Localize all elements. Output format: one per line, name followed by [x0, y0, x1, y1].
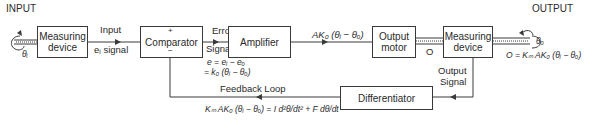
- theta-i-label: θᵢ: [22, 49, 28, 59]
- minus-sign: −: [168, 47, 173, 55]
- feedback-equation: Kₘ AK₀ (θᵢ − θₒ) = I d²θ/dt² + F dθ/dt: [205, 104, 339, 114]
- amplifier-output-label: AK₀ (θᵢ − θₒ): [312, 30, 364, 40]
- output-signal-label: Output: [438, 66, 467, 76]
- connector-lines: [0, 0, 599, 120]
- block-label: Output: [379, 31, 409, 42]
- output-motor-block: Output motor: [372, 26, 416, 58]
- amplifier-block: Amplifier: [228, 26, 291, 58]
- measuring-device-output-block: Measuring device: [443, 26, 493, 58]
- block-label: Amplifier: [240, 37, 279, 48]
- shaft-o-label: O: [426, 47, 433, 57]
- feedback-loop-label: Feedback Loop: [220, 84, 286, 94]
- block-label: Measuring: [445, 31, 492, 42]
- error-equation-2: = k₀ (θᵢ − θₒ): [204, 67, 251, 77]
- input-signal-label-2: eᵢ signal: [94, 45, 128, 55]
- output-equation: O = Kₘ AK₀ (θᵢ − θₒ): [506, 50, 581, 60]
- block-label: Differentiator: [358, 93, 415, 104]
- output-title: OUTPUT: [532, 4, 573, 14]
- block-label: device: [48, 42, 77, 53]
- input-title: INPUT: [6, 4, 36, 14]
- error-equation-1: e = eᵢ − eₒ: [207, 57, 245, 67]
- measuring-device-input-block: Measuring device: [37, 26, 88, 58]
- block-label: motor: [381, 42, 407, 53]
- block-label: Measuring: [39, 31, 86, 42]
- plus-sign: +: [168, 27, 173, 35]
- block-label: device: [454, 42, 483, 53]
- input-signal-label: Input: [100, 25, 121, 35]
- theta-o-label: θₒ: [536, 36, 544, 46]
- differentiator-block: Differentiator: [340, 86, 433, 110]
- output-signal-label-2: Signal: [440, 77, 466, 87]
